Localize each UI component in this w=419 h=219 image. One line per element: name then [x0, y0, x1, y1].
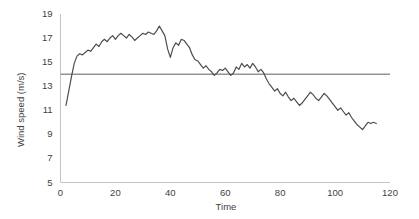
y-tick-label: 11 [31, 105, 53, 115]
y-axis-title: Wind speed (m/s) [16, 73, 26, 147]
x-tick-label: 120 [377, 188, 403, 198]
y-tick-label: 5 [31, 178, 53, 188]
y-tick-label: 13 [31, 81, 53, 91]
y-tick-label: 19 [31, 9, 53, 19]
x-tick-label: 20 [102, 188, 128, 198]
y-tick-label: 9 [31, 129, 53, 139]
y-tick-label: 15 [31, 57, 53, 67]
wind-speed-line-chart: 5791113151719 020406080100120 Wind speed… [0, 0, 419, 219]
x-tick-label: 100 [322, 188, 348, 198]
y-tick-label: 17 [31, 33, 53, 43]
wind-speed-series-line [66, 26, 376, 129]
x-tick-label: 40 [157, 188, 183, 198]
axis-lines [61, 14, 391, 183]
x-axis-title: Time [0, 202, 419, 212]
y-tick-label: 7 [31, 153, 53, 163]
x-tick-label: 0 [48, 188, 74, 198]
x-tick-label: 80 [267, 188, 293, 198]
x-tick-label: 60 [212, 188, 238, 198]
series-group [61, 26, 391, 129]
